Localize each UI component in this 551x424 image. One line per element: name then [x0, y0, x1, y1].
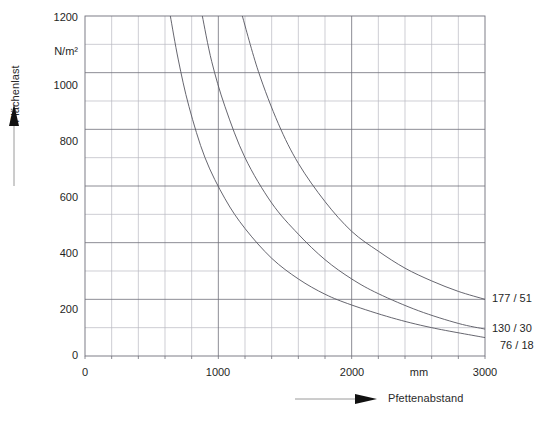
curve-label-177-51: 177 / 51 — [492, 292, 532, 304]
data-curves — [170, 16, 485, 338]
x-tick-1000: 1000 — [206, 366, 230, 378]
x-tick-3000: 3000 — [473, 366, 497, 378]
curve-76-18 — [170, 16, 485, 338]
x-axis-arrow-icon — [295, 393, 377, 405]
x-axis-title: Pfettenabstand — [388, 392, 463, 404]
x-axis-unit: mm — [410, 366, 428, 378]
curve-label-130-30: 130 / 30 — [492, 322, 532, 334]
x-tick-0: 0 — [82, 366, 88, 378]
grid-major-lines — [85, 16, 485, 356]
x-axis-ticks — [85, 356, 485, 359]
curve-label-76-18: 76 / 18 — [500, 339, 534, 351]
plot-area — [0, 0, 551, 424]
chart-container: Flächenlast 1200 N/m² 1000 800 600 400 2… — [0, 0, 551, 424]
x-tick-2000: 2000 — [340, 366, 364, 378]
